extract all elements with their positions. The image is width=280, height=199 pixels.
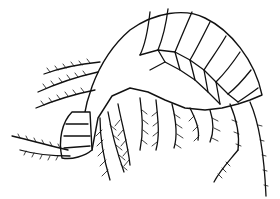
amphipod-drawing <box>0 0 280 199</box>
head <box>60 112 92 159</box>
uropods <box>214 102 268 196</box>
body-segments <box>82 9 262 150</box>
illustration-canvas <box>0 0 280 199</box>
